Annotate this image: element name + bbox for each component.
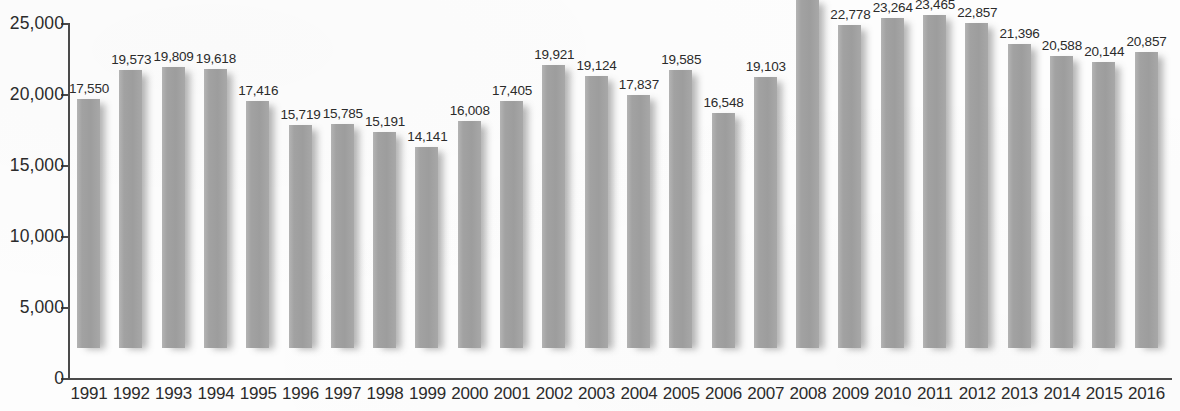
bar-group[interactable]: 23,264 <box>872 0 914 348</box>
bar-group[interactable]: 20,857 <box>1126 0 1168 348</box>
bar[interactable] <box>669 70 692 348</box>
bar[interactable] <box>838 25 861 348</box>
bar-group[interactable]: 19,103 <box>745 0 787 348</box>
bar[interactable] <box>500 101 523 348</box>
bar[interactable] <box>542 65 565 348</box>
bar-group[interactable]: 15,719 <box>280 0 322 348</box>
bar-group[interactable]: 19,124 <box>576 0 618 348</box>
x-axis-tick-label: 2016 <box>1121 384 1173 404</box>
y-axis-tick-label: 25,000 <box>0 13 64 34</box>
bar[interactable] <box>204 69 227 348</box>
y-axis-tick-label: 20,000 <box>0 84 64 105</box>
bar-group[interactable]: 22,857 <box>956 0 998 348</box>
bar-group[interactable]: 22,778 <box>829 0 871 348</box>
bar-group[interactable]: 20,144 <box>1083 0 1125 348</box>
bar[interactable] <box>246 101 269 348</box>
bar-group[interactable]: 17,416 <box>237 0 279 348</box>
bar[interactable] <box>881 18 904 348</box>
bar[interactable] <box>373 132 396 348</box>
bar[interactable] <box>415 147 438 348</box>
bar[interactable] <box>331 124 354 348</box>
bar-group[interactable]: 23,465 <box>914 0 956 348</box>
bar[interactable] <box>289 125 312 348</box>
bar[interactable] <box>1008 44 1031 348</box>
bar[interactable] <box>77 99 100 348</box>
bar-group[interactable]: 16,008 <box>449 0 491 348</box>
bar-group[interactable]: 16,548 <box>703 0 745 348</box>
bar[interactable] <box>923 15 946 348</box>
bar-group[interactable]: 19,585 <box>660 0 702 348</box>
bar[interactable] <box>1050 56 1073 348</box>
bar-chart: 25,00020,00015,00010,0005,0000 17,55019,… <box>0 0 1180 411</box>
bar[interactable] <box>965 23 988 348</box>
bar[interactable] <box>1092 62 1115 348</box>
plot-area: 17,55019,57319,80919,61817,41615,71915,7… <box>68 0 1172 380</box>
y-axis-tick-label: 5,000 <box>0 297 64 318</box>
bar[interactable] <box>796 0 819 348</box>
bar-group[interactable]: 14,141 <box>406 0 448 348</box>
y-axis-tick-label: 0 <box>0 368 64 389</box>
bar[interactable] <box>458 121 481 348</box>
bar-group[interactable]: 19,618 <box>195 0 237 348</box>
bar-group[interactable]: 15,785 <box>322 0 364 348</box>
bar[interactable] <box>712 113 735 348</box>
bar[interactable] <box>119 70 142 348</box>
bar[interactable] <box>585 76 608 348</box>
bar-group[interactable]: 19,921 <box>533 0 575 348</box>
bar-group[interactable]: 15,191 <box>364 0 406 348</box>
bar[interactable] <box>162 67 185 348</box>
bar-value-label: 20,857 <box>1114 34 1180 49</box>
y-axis-tick-label: 10,000 <box>0 226 64 247</box>
bar[interactable] <box>1135 52 1158 348</box>
bar-group[interactable]: 24,582 <box>787 0 829 348</box>
bar[interactable] <box>754 77 777 348</box>
bar[interactable] <box>627 95 650 348</box>
y-axis-tick-label: 15,000 <box>0 155 64 176</box>
